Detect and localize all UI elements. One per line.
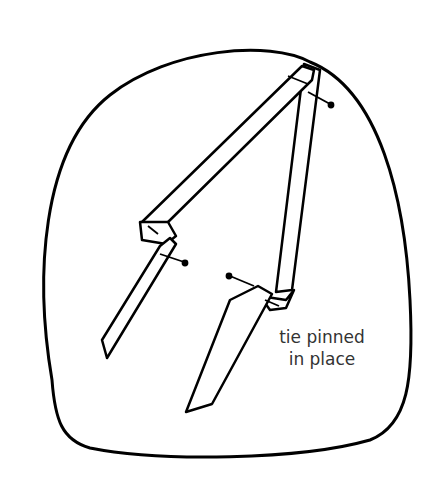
head-form-outline	[44, 50, 411, 457]
caption-line-1: tie pinned	[272, 326, 372, 348]
caption-label: tie pinned in place	[272, 326, 372, 370]
caption-line-2: in place	[272, 348, 372, 370]
diagram-canvas	[0, 0, 442, 489]
